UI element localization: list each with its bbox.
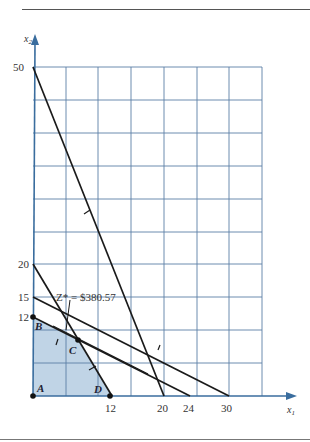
point-b xyxy=(30,314,36,320)
arrow-icon xyxy=(158,345,160,350)
y-tick-15: 15 xyxy=(18,291,30,303)
y-tick-50: 50 xyxy=(13,61,25,73)
arrow-icon xyxy=(84,210,90,214)
label-d: D xyxy=(93,383,102,395)
x-tick-30: 30 xyxy=(221,402,233,414)
bottom-rule xyxy=(0,439,310,440)
label-a: A xyxy=(36,382,44,394)
zstar-label: Z* = $380.57 xyxy=(56,291,116,303)
x-axis-arrow-icon xyxy=(286,392,297,400)
label-b: B xyxy=(34,320,42,332)
x-tick-20: 20 xyxy=(157,402,169,414)
x-tick-12: 12 xyxy=(105,402,116,414)
y-tick-20: 20 xyxy=(18,258,30,270)
y-axis-arrow-icon xyxy=(31,34,39,45)
point-a xyxy=(30,393,36,399)
point-c xyxy=(75,337,81,343)
label-c: C xyxy=(69,344,77,356)
y-axis-label: x2 xyxy=(23,33,32,46)
x-axis-label: x1 xyxy=(286,404,295,417)
y-tick-12: 12 xyxy=(18,311,29,323)
point-d xyxy=(107,393,113,399)
x-tick-24: 24 xyxy=(183,402,195,414)
lp-graph: A B C D Z* = $380.57 50 20 15 12 12 20 2… xyxy=(0,0,310,442)
